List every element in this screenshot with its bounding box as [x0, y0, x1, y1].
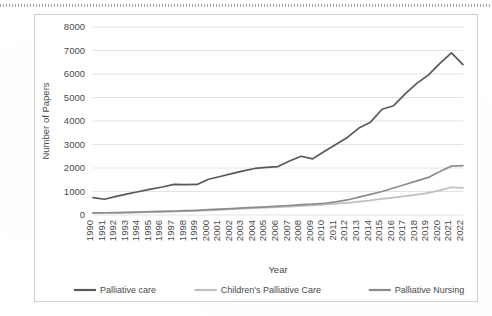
x-tick-label: 1999 [188, 220, 199, 241]
x-axis-title: Year [268, 264, 287, 275]
x-axis-tick-labels: 1990199119921993199419951996199719981999… [84, 220, 465, 241]
series-line [93, 53, 463, 199]
x-tick-label: 2022 [454, 220, 465, 241]
y-tick-label: 8000 [64, 21, 85, 32]
x-tick-label: 1998 [177, 220, 188, 241]
chart-frame: 010002000300040005000600070008000 199019… [34, 14, 478, 302]
x-tick-label: 2016 [385, 220, 396, 241]
y-tick-label: 4000 [64, 115, 85, 126]
x-tick-label: 2008 [292, 220, 303, 241]
x-tick-label: 2012 [338, 220, 349, 241]
x-tick-label: 2013 [350, 220, 361, 241]
y-axis-tick-labels: 010002000300040005000600070008000 [64, 21, 85, 220]
chart-plot-area: 010002000300040005000600070008000 199019… [35, 15, 479, 303]
y-tick-label: 7000 [64, 45, 85, 56]
x-tick-label: 1997 [165, 220, 176, 241]
x-tick-label: 2014 [362, 220, 373, 241]
x-tick-label: 1992 [107, 220, 118, 241]
x-tick-label: 1996 [153, 220, 164, 241]
legend-label: Children's Palliative Care [221, 285, 321, 295]
x-tick-label: 1991 [96, 220, 107, 241]
x-tick-label: 2017 [396, 220, 407, 241]
x-tick-label: 2004 [246, 220, 257, 241]
x-tick-label: 2015 [373, 220, 384, 241]
y-tick-label: 2000 [64, 162, 85, 173]
y-tick-label: 3000 [64, 139, 85, 150]
x-tick-label: 2020 [431, 220, 442, 241]
x-tick-label: 2005 [257, 220, 268, 241]
x-tick-label: 2018 [408, 220, 419, 241]
x-tick-label: 2019 [419, 220, 430, 241]
x-tick-label: 1995 [142, 220, 153, 241]
x-tick-label: 2006 [269, 220, 280, 241]
x-tick-label: 2009 [304, 220, 315, 241]
x-tick-label: 1994 [130, 220, 141, 241]
x-tick-label: 1990 [84, 220, 95, 241]
y-tick-label: 5000 [64, 92, 85, 103]
legend-label: Palliative Nursing [395, 285, 465, 295]
series-lines-group [93, 53, 463, 213]
legend-label: Palliative care [100, 285, 156, 295]
y-tick-label: 0 [80, 209, 85, 220]
chart-legend: Palliative careChildren's Palliative Car… [74, 285, 464, 295]
scan-artifact-band [0, 4, 492, 7]
gridlines-group [93, 27, 463, 215]
y-tick-label: 1000 [64, 186, 85, 197]
x-tick-label: 2011 [327, 220, 338, 240]
x-tick-label: 1993 [119, 220, 130, 241]
y-tick-label: 6000 [64, 68, 85, 79]
x-tick-label: 2002 [223, 220, 234, 241]
x-tick-label: 2003 [234, 220, 245, 241]
y-axis-title: Number of Papers [40, 82, 51, 159]
x-tick-label: 2007 [281, 220, 292, 241]
x-tick-label: 2001 [211, 220, 222, 241]
x-tick-label: 2021 [442, 220, 453, 241]
line-chart: 010002000300040005000600070008000 199019… [35, 15, 479, 303]
x-tick-label: 2010 [315, 220, 326, 241]
x-tick-label: 2000 [200, 220, 211, 241]
